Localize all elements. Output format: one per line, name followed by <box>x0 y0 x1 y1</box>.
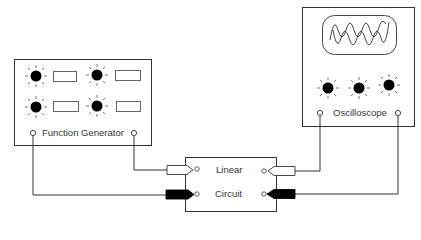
connector-white-left <box>167 166 193 175</box>
scope-terminal-right <box>395 110 400 115</box>
function-generator-label: Function Generator <box>42 127 124 138</box>
connector-white-right <box>268 167 295 176</box>
scope-terminal-left <box>317 110 322 115</box>
scope-knob-icon <box>378 74 400 96</box>
linear-circuit-label-line2: Circuit <box>215 188 242 199</box>
fg-display <box>54 102 79 112</box>
waveform-1 <box>330 21 386 40</box>
fg-display <box>54 72 77 82</box>
fg-display <box>117 102 141 112</box>
fg-knob-icon <box>86 64 108 86</box>
scope-knob-icon <box>348 77 370 99</box>
fg-display <box>116 71 141 81</box>
fg-terminal-left <box>30 130 35 135</box>
fg-knob-icon <box>25 65 47 87</box>
oscilloscope-label: Oscilloscope <box>333 107 387 118</box>
connector-black-left <box>166 190 194 199</box>
fg-knob-icon <box>86 95 108 117</box>
connector-black-right <box>267 190 295 199</box>
fg-terminal-right <box>131 130 136 135</box>
scope-knob-icon <box>317 77 339 99</box>
linear-circuit-label-line1: Linear <box>216 164 242 175</box>
fg-knob-icon <box>25 96 47 118</box>
